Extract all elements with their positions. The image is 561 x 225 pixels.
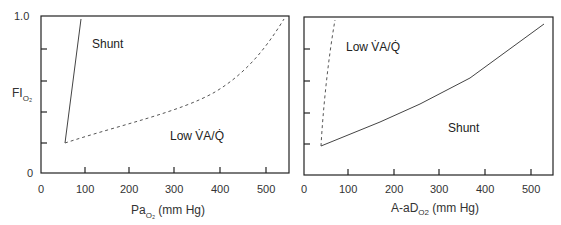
left-label-low-vq: Low V̇A/Q̇ [170,129,224,143]
left-y-axis-title: FIO₂ [12,86,32,103]
right-x-tick-0: 0 [301,183,307,195]
left-y-tick-0: 0 [27,167,33,179]
left-y-tick-1: 1.0 [14,10,29,22]
left-x-ticks [85,167,266,173]
right-x-ticks [348,169,531,175]
left-x-tick-400: 400 [211,183,229,195]
left-x-axis-title: PaO₂ (mm Hg) [131,203,205,220]
left-shunt-line [65,19,81,143]
right-y-ticks [304,49,310,144]
right-panel: 0 100 200 300 400 500 A-aDO2 (mm Hg) Low… [301,17,553,217]
right-label-shunt: Shunt [448,121,480,135]
chart-canvas: 1.0 0 0 100 200 300 400 500 FIO₂ PaO₂ (m… [0,0,561,225]
left-x-tick-300: 300 [165,183,183,195]
right-plot-frame [304,17,553,175]
left-x-tick-100: 100 [76,183,94,195]
left-label-shunt: Shunt [92,37,124,51]
left-x-tick-200: 200 [120,183,138,195]
right-x-tick-200: 200 [385,183,403,195]
left-x-tick-500: 500 [257,183,275,195]
right-label-low-vq: Low V̇A/Q̇ [346,40,400,54]
right-x-tick-500: 500 [522,183,540,195]
right-x-axis-title: A-aDO2 (mm Hg) [391,201,479,217]
left-x-tick-0: 0 [38,183,44,195]
right-x-tick-400: 400 [476,183,494,195]
left-panel: 1.0 0 0 100 200 300 400 500 FIO₂ PaO₂ (m… [12,10,289,220]
right-x-tick-300: 300 [430,183,448,195]
right-low-vq-curve [321,20,335,146]
right-x-tick-100: 100 [339,183,357,195]
left-y-ticks [41,49,47,143]
